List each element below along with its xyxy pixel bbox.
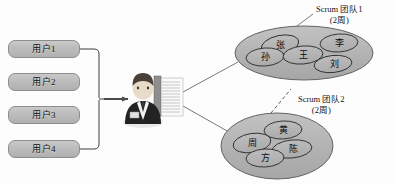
member-wang-label: 王 — [299, 51, 308, 60]
member-zhang-label: 张 — [276, 41, 285, 50]
user-box-2[interactable]: 用户2 — [8, 73, 80, 91]
backlog-document — [154, 76, 183, 116]
scrum-team-2-label: Scrum 团队2 (2周) — [298, 94, 345, 116]
user-box-4[interactable]: 用户4 — [8, 140, 80, 158]
member-liu-label: 刘 — [330, 60, 339, 69]
scrum-team-2-title: Scrum 团队2 — [298, 94, 345, 104]
scrum-team-1-leader-line — [297, 14, 313, 26]
scrum-team-1-label: Scrum 团队1 (2周) — [316, 4, 363, 26]
user-box-3-label: 用户3 — [32, 111, 55, 120]
backlog-to-teams-connectors — [183, 62, 238, 136]
scrum-team-1-title: Scrum 团队1 — [316, 4, 363, 14]
user-box-3[interactable]: 用户3 — [8, 106, 80, 124]
member-zhou-label: 周 — [248, 139, 257, 148]
diagram-canvas: 用户1 用户2 用户3 用户4 Scrum 团队1 (2周) Scrum 团队2… — [0, 0, 396, 184]
member-li-label: 李 — [335, 39, 344, 48]
scrum-team-1-sprint: (2周) — [316, 15, 363, 26]
member-fang-label: 方 — [261, 154, 270, 163]
users-bus-connector — [80, 49, 104, 149]
scrum-team-2-leader-line — [271, 89, 291, 113]
member-chen-label: 陈 — [289, 145, 298, 154]
member-sun-label: 孙 — [261, 53, 270, 62]
user-box-2-label: 用户2 — [32, 78, 55, 87]
user-box-1-label: 用户1 — [32, 45, 55, 54]
user-box-4-label: 用户4 — [32, 145, 55, 154]
scrum-team-2-sprint: (2周) — [298, 105, 345, 116]
user-box-1[interactable]: 用户1 — [8, 40, 80, 58]
member-huang-label: 黄 — [279, 126, 288, 135]
